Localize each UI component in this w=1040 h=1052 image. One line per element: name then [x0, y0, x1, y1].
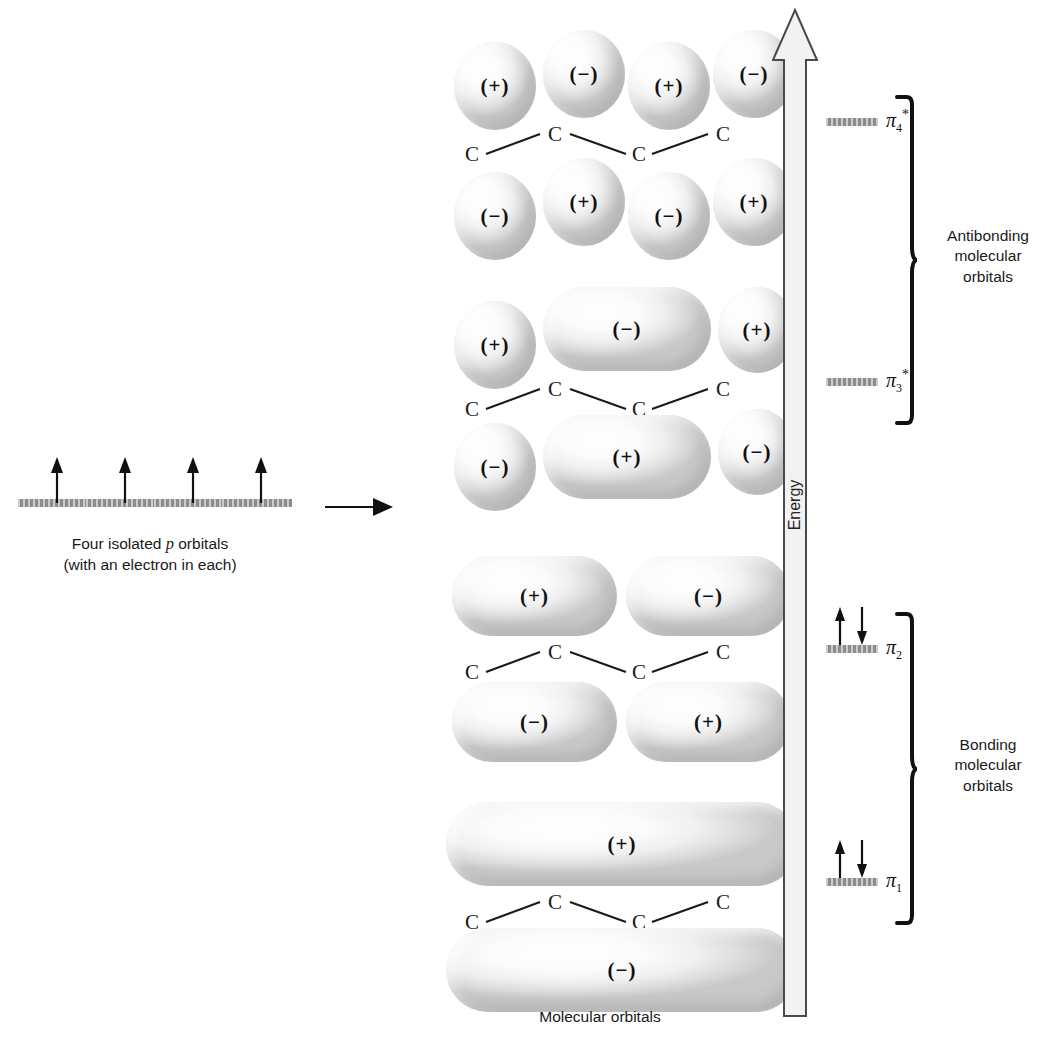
electron-up-arrow-icon	[254, 457, 268, 503]
carbon-atom-label: C	[548, 122, 562, 146]
right-arrow-icon	[325, 495, 395, 519]
group-label-line-1: Antibonding	[938, 226, 1038, 246]
caption-line-2: (with an electron in each)	[0, 555, 300, 576]
group-label-line-2: molecular	[938, 246, 1038, 266]
carbon-atom-label: C	[465, 397, 479, 421]
lobe-sign: (−)	[626, 584, 791, 609]
carbon-atom-label: C	[465, 142, 479, 166]
electron-pair-arrows	[828, 840, 880, 878]
lobe-sign: (−)	[446, 958, 798, 983]
lobe-sign: (+)	[454, 74, 536, 99]
energy-level-bar	[826, 645, 878, 653]
lobe-top-delocalized: (+)	[446, 802, 798, 886]
lobe-sign: (−)	[454, 204, 536, 229]
group-label-line-3: orbitals	[938, 776, 1038, 796]
mo-pi-2: (+) (−) C C C C (−) (+)	[430, 552, 770, 747]
mo-pi-4-star: (+) (−) (+) (−) C C C C (−) (+) (−) (+)	[430, 28, 770, 228]
bonding-brace	[893, 612, 917, 925]
bonding-group-label: Bonding molecular orbitals	[938, 735, 1038, 796]
lobe-sign: (+)	[543, 190, 625, 215]
lobe-sign: (−)	[543, 62, 625, 87]
carbon-atom-label: C	[632, 142, 646, 166]
caption-line-1-prefix: Four isolated	[72, 535, 166, 552]
caption-line-1-suffix: orbitals	[174, 535, 228, 552]
carbon-atom-label: C	[632, 660, 646, 684]
caption-line-1: Four isolated p orbitals	[0, 533, 300, 555]
carbon-atom-label: C	[548, 377, 562, 401]
electron-up-arrow-icon	[186, 457, 200, 503]
antibonding-group-label: Antibonding molecular orbitals	[938, 226, 1038, 287]
lobe-bottom-center-merged: (+)	[543, 415, 711, 499]
electron-up-arrow-icon	[50, 457, 64, 503]
group-label-line-2: molecular	[938, 755, 1038, 775]
p-orbital-level-2	[86, 455, 156, 511]
electron-down-arrow-icon	[857, 631, 867, 645]
lobe-bottom-right: (+)	[626, 682, 791, 762]
lobe-sign: (+)	[543, 445, 711, 470]
mo-pi-3-star: (+) (−) (+) C C C C (−) (+) (−)	[430, 283, 770, 483]
lobe-sign: (+)	[446, 832, 798, 857]
lobe-top-2: (−)	[543, 30, 625, 118]
p-orbital-level-1	[18, 455, 88, 511]
electron-down-arrow-icon	[857, 864, 867, 878]
isolated-orbitals-caption: Four isolated p orbitals (with an electr…	[0, 533, 300, 576]
lobe-sign: (−)	[543, 317, 711, 342]
electron-up-arrow-icon	[118, 457, 132, 503]
lobe-sign: (+)	[626, 710, 791, 735]
energy-level-bar	[826, 878, 878, 886]
carbon-atom-label: C	[548, 640, 562, 664]
lobe-top-right: (−)	[626, 556, 791, 636]
p-orbital-level-4	[222, 455, 292, 511]
antibonding-brace	[893, 95, 917, 425]
lobe-bottom-3: (−)	[628, 172, 710, 260]
carbon-atom-label: C	[716, 640, 730, 664]
carbon-atom-label: C	[465, 660, 479, 684]
molecular-orbitals-caption: Molecular orbitals	[430, 1008, 770, 1026]
group-label-line-3: orbitals	[938, 267, 1038, 287]
carbon-atom-label: C	[548, 890, 562, 914]
energy-level-bar	[826, 118, 878, 126]
group-label-line-1: Bonding	[938, 735, 1038, 755]
p-orbital-level-3	[154, 455, 224, 511]
lobe-bottom-left: (−)	[452, 682, 617, 762]
lobe-sign: (−)	[452, 710, 617, 735]
isolated-p-orbitals-group	[0, 455, 300, 515]
carbon-atom-label: C	[716, 122, 730, 146]
lobe-bottom-1: (−)	[454, 423, 536, 511]
electron-up-arrow-icon	[835, 607, 845, 621]
carbon-atom-label: C	[716, 890, 730, 914]
electron-pair-arrows	[828, 607, 880, 645]
lobe-sign: (−)	[628, 204, 710, 229]
lobe-bottom-1: (−)	[454, 172, 536, 260]
caption-italic-p: p	[166, 534, 174, 553]
mo-pi-1: (+) C C C C (−)	[430, 800, 770, 1000]
energy-axis-label-text: Energy	[786, 480, 804, 531]
energy-axis-label: Energy	[772, 440, 818, 570]
lobe-sign: (−)	[454, 455, 536, 480]
lobe-bottom-2: (+)	[543, 158, 625, 246]
lobe-top-center-merged: (−)	[543, 287, 711, 371]
lobe-bottom-delocalized: (−)	[446, 928, 798, 1012]
electron-up-arrow-icon	[835, 840, 845, 854]
lobe-sign: (+)	[454, 333, 536, 358]
energy-level-bar	[826, 378, 878, 386]
lobe-top-left: (+)	[452, 556, 617, 636]
carbon-atom-label: C	[716, 377, 730, 401]
lobe-sign: (+)	[628, 74, 710, 99]
lobe-sign: (+)	[452, 584, 617, 609]
